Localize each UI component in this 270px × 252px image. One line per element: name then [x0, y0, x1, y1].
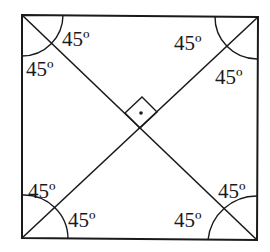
angle-label-bl-upper: 45º — [28, 179, 56, 203]
right-angle-dot — [139, 111, 143, 115]
angle-label-tl-lower: 45º — [26, 57, 54, 81]
angle-label-tr-upper: 45º — [174, 31, 202, 55]
angle-label-tl-upper: 45º — [62, 27, 90, 51]
angle-label-tr-lower: 45º — [215, 65, 243, 89]
angle-label-br-upper: 45º — [218, 179, 246, 203]
angle-label-br-lower: 45º — [174, 208, 202, 232]
square-diagonals-diagram: 45º 45º 45º 45º 45º 45º 45º 45º — [0, 0, 270, 252]
angle-label-bl-lower: 45º — [68, 208, 96, 232]
